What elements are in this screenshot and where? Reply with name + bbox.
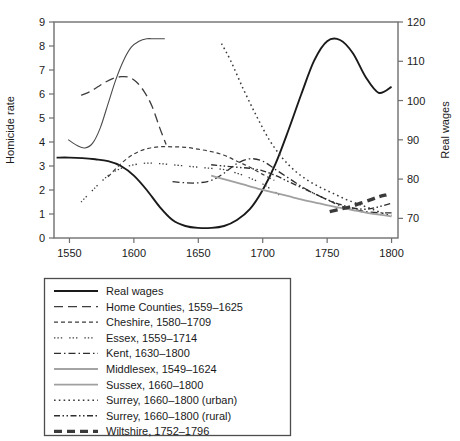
right-tick-label: 90 bbox=[407, 134, 419, 146]
right-axis-title: Real wages bbox=[439, 101, 451, 159]
bottom-tick-label: 1600 bbox=[122, 247, 146, 259]
left-tick-label: 9 bbox=[39, 16, 45, 28]
left-tick-label: 0 bbox=[39, 232, 45, 244]
bottom-tick-label: 1800 bbox=[379, 247, 403, 259]
left-tick-label: 8 bbox=[39, 40, 45, 52]
series-line bbox=[81, 163, 281, 202]
left-tick-label: 1 bbox=[39, 208, 45, 220]
legend-label: Wiltshire, 1752–1796 bbox=[106, 425, 209, 437]
series-line bbox=[211, 165, 391, 209]
left-tick-label: 7 bbox=[39, 64, 45, 76]
series-line bbox=[211, 176, 391, 217]
bottom-tick-label: 1650 bbox=[186, 247, 210, 259]
left-tick-label: 5 bbox=[39, 112, 45, 124]
left-tick-label: 3 bbox=[39, 160, 45, 172]
bottom-tick-label: 1750 bbox=[315, 247, 339, 259]
left-tick-label: 2 bbox=[39, 184, 45, 196]
legend-label: Sussex, 1660–1800 bbox=[106, 379, 203, 391]
right-tick-label: 120 bbox=[407, 16, 425, 28]
left-axis-title: Homicide rate bbox=[4, 96, 16, 164]
right-tick-label: 80 bbox=[407, 173, 419, 185]
left-tick-label: 4 bbox=[39, 136, 45, 148]
bottom-tick-label: 1550 bbox=[57, 247, 81, 259]
chart-figure: 0123456789 708090100110120 1550160016501… bbox=[0, 0, 460, 441]
right-axis-ticks: 708090100110120 bbox=[398, 16, 425, 224]
legend-label: Home Counties, 1559–1625 bbox=[106, 301, 243, 313]
left-axis-ticks: 0123456789 bbox=[39, 16, 54, 244]
bottom-tick-label: 1700 bbox=[250, 247, 274, 259]
series-line bbox=[81, 77, 166, 145]
legend-label: Middlesex, 1549–1624 bbox=[106, 363, 217, 375]
right-tick-label: 70 bbox=[407, 212, 419, 224]
data-series-group bbox=[57, 39, 392, 229]
left-tick-label: 6 bbox=[39, 88, 45, 100]
legend-label: Kent, 1630–1800 bbox=[106, 347, 190, 359]
legend-label: Essex, 1559–1714 bbox=[106, 332, 197, 344]
series-line bbox=[57, 39, 392, 229]
chart-page: 0123456789 708090100110120 1550160016501… bbox=[0, 0, 460, 441]
plot-frame bbox=[54, 22, 398, 238]
bottom-axis-ticks: 155016001650170017501800 bbox=[57, 238, 404, 259]
series-line bbox=[68, 39, 165, 148]
chart-legend: Real wagesHome Counties, 1559–1625Cheshi… bbox=[45, 279, 291, 438]
legend-label: Real wages bbox=[106, 285, 164, 297]
legend-label: Surrey, 1660–1800 (rural) bbox=[106, 410, 231, 422]
right-tick-label: 110 bbox=[407, 55, 425, 67]
right-tick-label: 100 bbox=[407, 95, 425, 107]
legend-items: Real wagesHome Counties, 1559–1625Cheshi… bbox=[54, 285, 243, 437]
legend-label: Cheshire, 1580–1709 bbox=[106, 316, 211, 328]
legend-label: Surrey, 1660–1800 (urban) bbox=[106, 394, 237, 406]
